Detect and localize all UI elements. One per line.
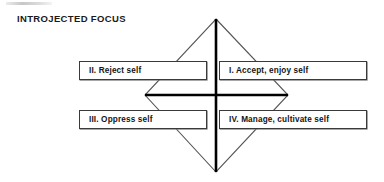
- quadrant-box-upper-left: II. Reject self: [79, 61, 207, 80]
- quadrant-label-2: II. Reject self: [80, 66, 141, 75]
- quadrant-label-3: III. Oppress self: [80, 115, 153, 124]
- quadrant-box-lower-left: III. Oppress self: [79, 110, 207, 129]
- quadrant-box-lower-right: IV. Manage, cultivate self: [219, 110, 367, 129]
- quadrant-label-1: I. Accept, enjoy self: [220, 66, 308, 75]
- quadrant-label-4: IV. Manage, cultivate self: [220, 115, 329, 124]
- figure-canvas: INTROJECTED FOCUS II. Reject self I. Acc…: [0, 0, 384, 182]
- quadrant-box-upper-right: I. Accept, enjoy self: [219, 61, 367, 80]
- quadrant-diamond-graphic: [0, 0, 384, 182]
